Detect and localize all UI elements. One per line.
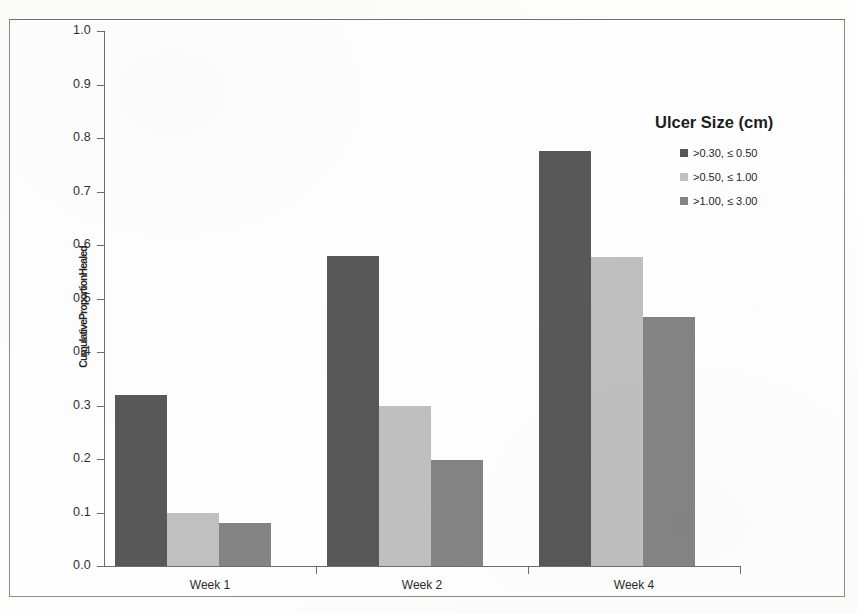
legend-item-label: >1.00, ≤ 3.00 (693, 195, 757, 207)
x-axis-separator-tick (528, 566, 529, 574)
y-axis-tick-label: 0.2 (73, 451, 91, 465)
y-axis-tick-mark (97, 513, 104, 514)
y-axis-tick-mark (97, 459, 104, 460)
legend-swatch-icon (680, 197, 688, 205)
legend-item: >1.00, ≤ 3.00 (655, 195, 835, 207)
bar (327, 256, 379, 566)
bar (379, 406, 431, 567)
bar (115, 395, 167, 566)
y-axis-tick-label: 1.0 (73, 23, 91, 37)
x-axis-end-tick (740, 566, 741, 574)
y-axis-tick-mark (97, 352, 104, 353)
legend-item: >0.50, ≤ 1.00 (655, 171, 835, 183)
x-axis-category-label: Week 2 (316, 578, 528, 592)
y-axis-title: CumulativeProportionHealed (77, 246, 89, 367)
x-axis-separator-tick (316, 566, 317, 574)
bar (643, 317, 695, 566)
legend-swatch-icon (680, 149, 688, 157)
y-axis-tick-label: 0.7 (73, 184, 91, 198)
legend-item-label: >0.50, ≤ 1.00 (693, 171, 757, 183)
y-axis-tick-mark (97, 138, 104, 139)
legend-items: >0.30, ≤ 0.50>0.50, ≤ 1.00>1.00, ≤ 3.00 (655, 147, 835, 207)
y-axis-tick-mark (97, 85, 104, 86)
y-axis-tick-label: 0.0 (73, 558, 91, 572)
x-axis-category-label: Week 4 (528, 578, 740, 592)
x-axis-category-label: Week 1 (104, 578, 316, 592)
bar (591, 257, 643, 566)
legend-swatch-icon (680, 173, 688, 181)
y-axis-tick-label: 0.1 (73, 505, 91, 519)
y-axis-tick-mark (97, 245, 104, 246)
y-axis-tick-mark (97, 192, 104, 193)
y-axis-tick-label: 0.8 (73, 130, 91, 144)
y-axis-tick-mark (97, 31, 104, 32)
chart-legend: Ulcer Size (cm) >0.30, ≤ 0.50>0.50, ≤ 1.… (655, 113, 835, 219)
bar (219, 523, 271, 566)
legend-item-label: >0.30, ≤ 0.50 (693, 147, 757, 159)
legend-item: >0.30, ≤ 0.50 (655, 147, 835, 159)
x-axis-line (104, 566, 741, 567)
bar (431, 460, 483, 566)
y-axis-tick-mark (97, 406, 104, 407)
y-axis-tick-label: 0.9 (73, 77, 91, 91)
legend-title: Ulcer Size (cm) (655, 113, 835, 132)
y-axis-tick-label: 0.3 (73, 398, 91, 412)
chart-figure: 1.00.90.80.70.60.50.40.30.20.10.0 Cumula… (0, 0, 857, 614)
bar (539, 151, 591, 566)
y-axis-tick-mark (97, 566, 104, 567)
plot-area (104, 31, 740, 566)
bar (167, 513, 219, 567)
y-axis-tick-mark (97, 299, 104, 300)
